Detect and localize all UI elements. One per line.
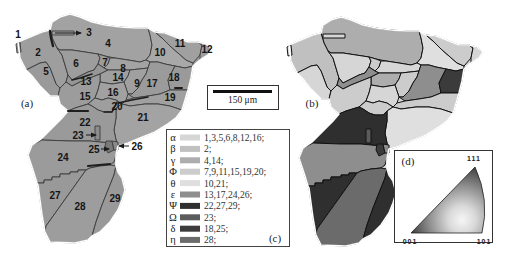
ipf-corner-101: 101 [477,238,492,245]
legend-grains: 28; [204,234,216,245]
grain-label: 3 [86,27,92,38]
legend-swatch [180,180,200,186]
grain-label: 9 [134,78,140,89]
legend-swatch [180,203,200,209]
grain-label: 10 [154,47,166,58]
legend-grains: 2; [204,143,211,154]
panel-a-label: (a) [21,97,34,110]
grain-label: 25 [88,144,100,155]
legend-swatch [180,135,200,141]
grain-label: 5 [43,66,49,77]
grain-label: 12 [201,44,213,55]
legend-swatch [180,169,200,175]
ipf-corner-001: 001 [403,238,418,245]
legend-grains: 10,21; [204,178,228,189]
grain-label: 6 [73,58,79,69]
grain-label: 27 [49,190,61,201]
grain-label: 15 [79,91,91,102]
legend-symbol: β [170,143,175,154]
legend-grains: 7,9,11,15,19,20; [204,166,266,177]
grain-21 [385,107,453,149]
grain-23 [95,126,100,140]
legend-swatch [180,157,200,163]
grain-label: 14 [112,72,124,83]
grain-23 [366,129,371,143]
grain-label: 17 [146,78,158,89]
panel-b-label: (b) [306,97,319,110]
legend-symbol: η [170,234,176,245]
legend-symbol: γ [170,155,176,166]
grain-label: 2 [35,47,41,58]
legend-symbol: Φ [169,166,177,177]
grain-label: 1 [15,29,21,40]
legend-grains: 23; [204,212,216,223]
figure: 1 2 3 4 5 6 7 8 9 10 11 12 13 14 15 16 1… [0,0,511,260]
grain-label: 28 [74,201,86,212]
legend-symbol: ε [171,189,176,200]
grain-label: 29 [109,193,121,204]
grain-label: 19 [164,92,176,103]
legend-grains: 18,25; [204,223,228,234]
panel-c-label: (c) [269,232,282,245]
scale-bar: 150 μm [208,86,279,110]
grain-label: 4 [105,38,111,49]
legend-grains: 13,17,24,26; [204,189,252,200]
grain-3 [323,34,345,38]
legend-swatch [180,146,200,152]
grain-label: 26 [131,141,143,152]
scale-bar-label: 150 μm [228,95,258,105]
legend-swatch [180,214,200,220]
legend-symbol: α [170,132,176,143]
grain-label: 18 [168,72,180,83]
ipf-corner-111: 111 [467,155,481,162]
panel-d-label: (d) [402,155,415,168]
grain-label: 23 [72,130,84,141]
grain-label: 13 [80,76,92,87]
grain-label: 22 [79,117,91,128]
grain-label: 21 [137,112,149,123]
legend-symbol: Ω [169,212,177,223]
grain-label: 7 [102,57,108,68]
legend-swatch [180,192,200,198]
grain-label: 24 [57,152,69,163]
legend-grains: 1,3,5,6,8,12,16; [204,132,264,143]
grain-label: 20 [111,101,123,112]
panel-c-legend: α 1,3,5,6,8,12,16; β 2; γ 4,14; Φ 7,9,11… [167,130,290,247]
legend-symbol: Ψ [169,200,177,211]
legend-symbol: θ [170,178,175,189]
legend-grains: 4,14; [204,155,223,166]
legend-grains: 22,27,29; [204,200,240,211]
grain-label: 16 [107,87,119,98]
grain-label: 11 [175,38,186,49]
legend-swatch [180,226,200,232]
legend-symbol: δ [171,223,176,234]
legend-swatch [180,237,200,243]
panel-d-inverse-pole-figure: (d) 111 001 101 [395,151,493,246]
